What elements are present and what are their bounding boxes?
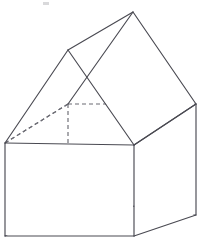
house-prism-line-drawing: [0, 0, 205, 243]
front-wall-face-overlay: [5, 144, 133, 235]
scan-speck-artifact: [43, 2, 49, 5]
figure-container: House-shaped solid (cuboid with triangul…: [0, 0, 205, 243]
